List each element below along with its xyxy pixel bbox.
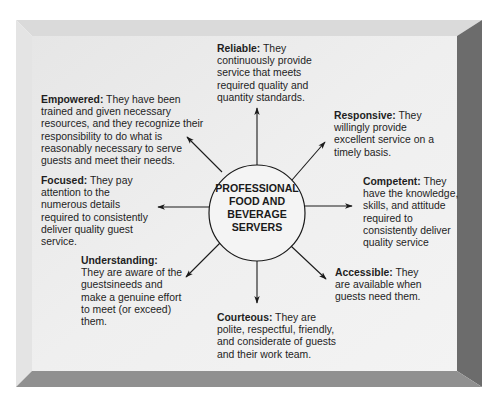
center-line: PROFESSIONAL [209, 182, 305, 195]
trait-title: Responsive: [334, 110, 396, 121]
trait-reliable: Reliable: They continuously provide serv… [217, 43, 337, 104]
trait-body: They are aware of the guestsineeds and m… [81, 267, 182, 327]
trait-empowered: Empowered: They have been trained and gi… [41, 94, 209, 167]
center-label: PROFESSIONAL FOOD AND BEVERAGE SERVERS [209, 182, 305, 234]
trait-title: Empowered: [41, 94, 103, 105]
center-line: BEVERAGE [209, 208, 305, 221]
center-line: FOOD AND [209, 195, 305, 208]
trait-accessible: Accessible: They are available when gues… [335, 267, 435, 304]
trait-title: Focused: [41, 175, 87, 186]
trait-focused: Focused: They pay attention to the numer… [41, 175, 149, 248]
trait-responsive: Responsive: They willingly provide excel… [334, 110, 442, 159]
trait-competent: Competent: They have the knowledge, skil… [363, 176, 461, 249]
left-bevel [16, 20, 32, 387]
trait-understanding: Understanding:They are aware of the gues… [81, 255, 183, 328]
trait-title: Accessible: [335, 267, 393, 278]
top-bevel [16, 20, 482, 36]
trait-title: Understanding: [81, 255, 183, 267]
bottom-bevel [16, 371, 482, 387]
trait-title: Competent: [363, 176, 421, 187]
trait-courteous: Courteous: They are polite, respectful, … [217, 312, 339, 361]
trait-title: Reliable: [217, 43, 260, 54]
trait-title: Courteous: [217, 312, 272, 323]
center-line: SERVERS [209, 221, 305, 234]
